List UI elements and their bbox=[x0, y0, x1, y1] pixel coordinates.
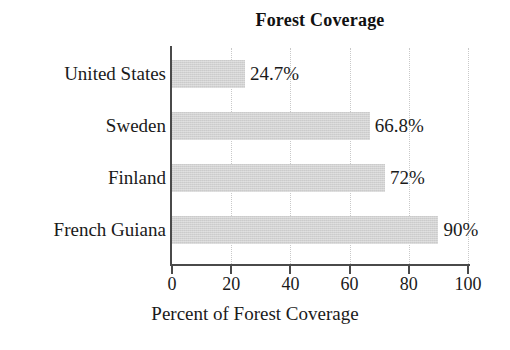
category-label: Sweden bbox=[6, 112, 166, 140]
bar-value-label: 24.7% bbox=[250, 60, 299, 88]
x-axis-line bbox=[170, 264, 470, 266]
x-axis-title: Percent of Forest Coverage bbox=[0, 303, 510, 325]
bar bbox=[172, 60, 245, 88]
bar-value-label: 72% bbox=[390, 164, 425, 192]
bar bbox=[172, 112, 370, 140]
chart-title: Forest Coverage bbox=[172, 10, 468, 31]
x-axis-tick bbox=[171, 266, 173, 274]
x-axis-tick-label: 100 bbox=[438, 274, 498, 295]
y-axis-line bbox=[170, 46, 172, 266]
x-axis-tick bbox=[289, 266, 291, 274]
plot-area bbox=[172, 48, 468, 264]
bar-chart: Forest Coverage United StatesSwedenFinla… bbox=[0, 0, 510, 350]
x-axis-tick-label: 0 bbox=[142, 274, 202, 295]
bar-value-label: 66.8% bbox=[375, 112, 424, 140]
x-axis-tick bbox=[349, 266, 351, 274]
x-axis-tick-label: 20 bbox=[201, 274, 261, 295]
x-axis-tick bbox=[230, 266, 232, 274]
category-label: United States bbox=[6, 60, 166, 88]
bar bbox=[172, 216, 438, 244]
x-axis-tick bbox=[467, 266, 469, 274]
category-label: Finland bbox=[6, 164, 166, 192]
x-axis-tick-label: 40 bbox=[260, 274, 320, 295]
x-axis-tick-label: 80 bbox=[379, 274, 439, 295]
bar bbox=[172, 164, 385, 192]
bar-value-label: 90% bbox=[443, 216, 478, 244]
x-axis-tick-label: 60 bbox=[320, 274, 380, 295]
x-axis-tick bbox=[408, 266, 410, 274]
category-label: French Guiana bbox=[6, 216, 166, 244]
